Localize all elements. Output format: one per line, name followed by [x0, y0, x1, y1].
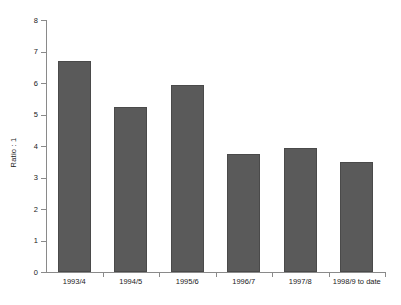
y-tick-label: 1	[34, 237, 38, 245]
bar-chart: Ratio : 1 012345678 1993/41994/51995/619…	[0, 0, 401, 305]
y-tick-label: 8	[34, 17, 38, 25]
bar	[114, 107, 147, 272]
x-axis-label: 1997/8	[289, 278, 312, 286]
x-tick	[216, 272, 217, 277]
y-tick: 6	[41, 83, 46, 84]
x-tick	[103, 272, 104, 277]
x-tick-end	[385, 272, 386, 277]
bar	[58, 61, 91, 272]
x-axis-label: 1993/4	[63, 278, 86, 286]
y-axis-line	[46, 20, 47, 272]
x-axis-label: 1998/9 to date	[333, 278, 381, 286]
x-axis-label: 1996/7	[232, 278, 255, 286]
x-tick	[159, 272, 160, 277]
y-tick-label: 3	[34, 174, 38, 182]
y-tick-label: 2	[34, 206, 38, 214]
y-tick: 3	[41, 178, 46, 179]
x-axis-label: 1994/5	[119, 278, 142, 286]
y-tick: 0	[41, 272, 46, 273]
x-tick	[272, 272, 273, 277]
y-tick-label: 6	[34, 80, 38, 88]
bar	[227, 154, 260, 272]
x-tick	[329, 272, 330, 277]
x-axis-label: 1995/6	[176, 278, 199, 286]
y-tick-label: 7	[34, 48, 38, 56]
plot-area: 012345678 1993/41994/51995/61996/71997/8…	[46, 20, 385, 272]
bar	[284, 148, 317, 272]
y-tick-label: 4	[34, 143, 38, 151]
y-tick-label: 0	[34, 269, 38, 277]
y-axis-title: Ratio : 1	[0, 0, 26, 305]
y-tick-label: 5	[34, 111, 38, 119]
bar	[171, 85, 204, 272]
y-tick: 4	[41, 146, 46, 147]
y-tick: 7	[41, 52, 46, 53]
y-tick: 8	[41, 20, 46, 21]
y-tick: 5	[41, 115, 46, 116]
y-tick: 1	[41, 241, 46, 242]
y-tick: 2	[41, 209, 46, 210]
bar	[340, 162, 373, 272]
